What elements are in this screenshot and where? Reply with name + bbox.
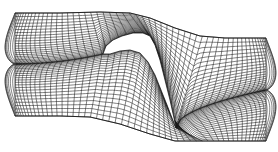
mesh-canvas bbox=[0, 0, 278, 152]
mesh-streamline bbox=[15, 72, 266, 132]
mesh-crossline bbox=[134, 60, 146, 129]
mesh-streamline bbox=[15, 79, 266, 133]
airfoil-blade bbox=[103, 33, 176, 128]
mesh-grid-lines bbox=[5, 12, 276, 141]
mesh-crossline bbox=[90, 54, 102, 117]
mesh-crossline bbox=[109, 51, 122, 122]
mesh-streamline bbox=[15, 86, 266, 135]
